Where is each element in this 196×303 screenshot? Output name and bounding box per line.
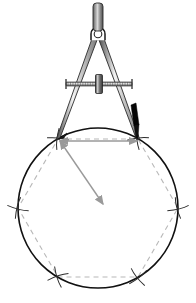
compass-adjustment-wheel[interactable] xyxy=(96,75,103,94)
measure-arrows xyxy=(60,141,137,204)
adjustment-wheel-body[interactable] xyxy=(96,75,103,94)
geometry-construction-figure xyxy=(0,0,196,303)
inscribed-hexagon xyxy=(18,139,178,277)
arc-crossing-marks xyxy=(5,127,192,293)
construction-circle xyxy=(18,128,178,288)
drawing-compass xyxy=(57,3,140,140)
circle-outline xyxy=(18,128,178,288)
compass-handle[interactable] xyxy=(93,3,103,31)
hexagon-outline xyxy=(18,139,178,277)
handle-grip[interactable] xyxy=(93,3,103,31)
radius-measure-arrow xyxy=(60,141,103,204)
compass-needle-leg xyxy=(57,37,98,139)
compass-pencil-leg xyxy=(99,37,140,139)
figure-root: A pair of compasses set to the circle ra… xyxy=(0,0,196,303)
